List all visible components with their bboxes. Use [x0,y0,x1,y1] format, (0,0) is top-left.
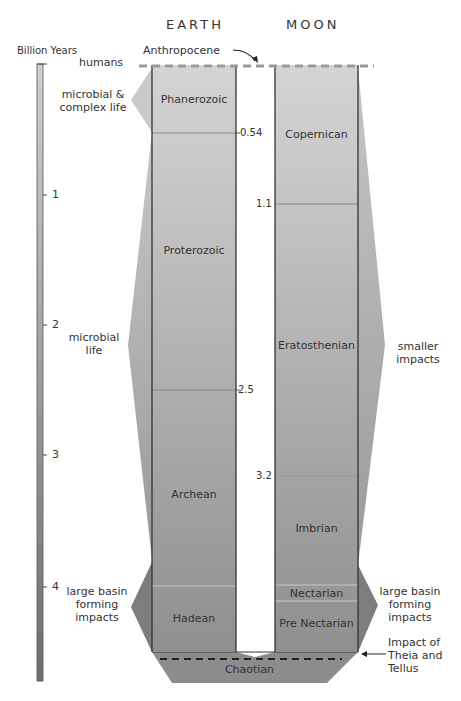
anthropocene-arrow [233,50,255,61]
moon-impact-wedges [358,68,385,652]
eon-phanerozoic: Phanerozoic [152,93,236,106]
scale-bar [37,64,47,681]
scale-tick-1: 1 [52,188,59,201]
smaller-impacts-label: smaller impacts [388,340,448,366]
period-pre-nectarian: Pre Nectarian [275,617,358,630]
microbial-life-label: microbial life [66,331,122,357]
boundary-2-5: 2.5 [238,384,254,395]
scale-label: Billion Years [17,44,77,57]
moon-large-impacts-label: large basin forming impacts [377,585,443,624]
theia-impact-label: Impact of Theia and Tellus [388,636,442,675]
complex-life-label: microbial & complex life [57,88,129,114]
earth-column [152,65,240,652]
scale-tick-4: 4 [52,580,59,593]
earth-header: EARTH [166,17,224,32]
scale-tick-2: 2 [52,318,59,331]
theia-arrowhead [361,651,367,657]
eon-archean: Archean [152,488,236,501]
moon-header: MOON [286,17,339,32]
anthropocene-arrowhead [252,56,258,63]
earth-life-wedges [128,68,152,652]
scale-tick-3: 3 [52,448,59,461]
period-nectarian: Nectarian [275,587,358,600]
boundary-1-1: 1.1 [256,198,272,209]
boundary-0-54: 0.54 [240,127,262,138]
chaotian-label: Chaotian [172,663,327,676]
period-eratosthenian: Eratosthenian [275,339,358,352]
eon-proterozoic: Proterozoic [152,244,236,257]
earth-large-impacts-label: large basin forming impacts [64,585,130,624]
period-copernican: Copernican [275,128,358,141]
anthropocene-label: Anthropocene [143,44,220,57]
humans-label: humans [79,56,123,69]
eon-hadean: Hadean [152,612,236,625]
period-imbrian: Imbrian [275,522,358,535]
boundary-3-2: 3.2 [256,470,272,481]
moon-column [275,65,358,652]
